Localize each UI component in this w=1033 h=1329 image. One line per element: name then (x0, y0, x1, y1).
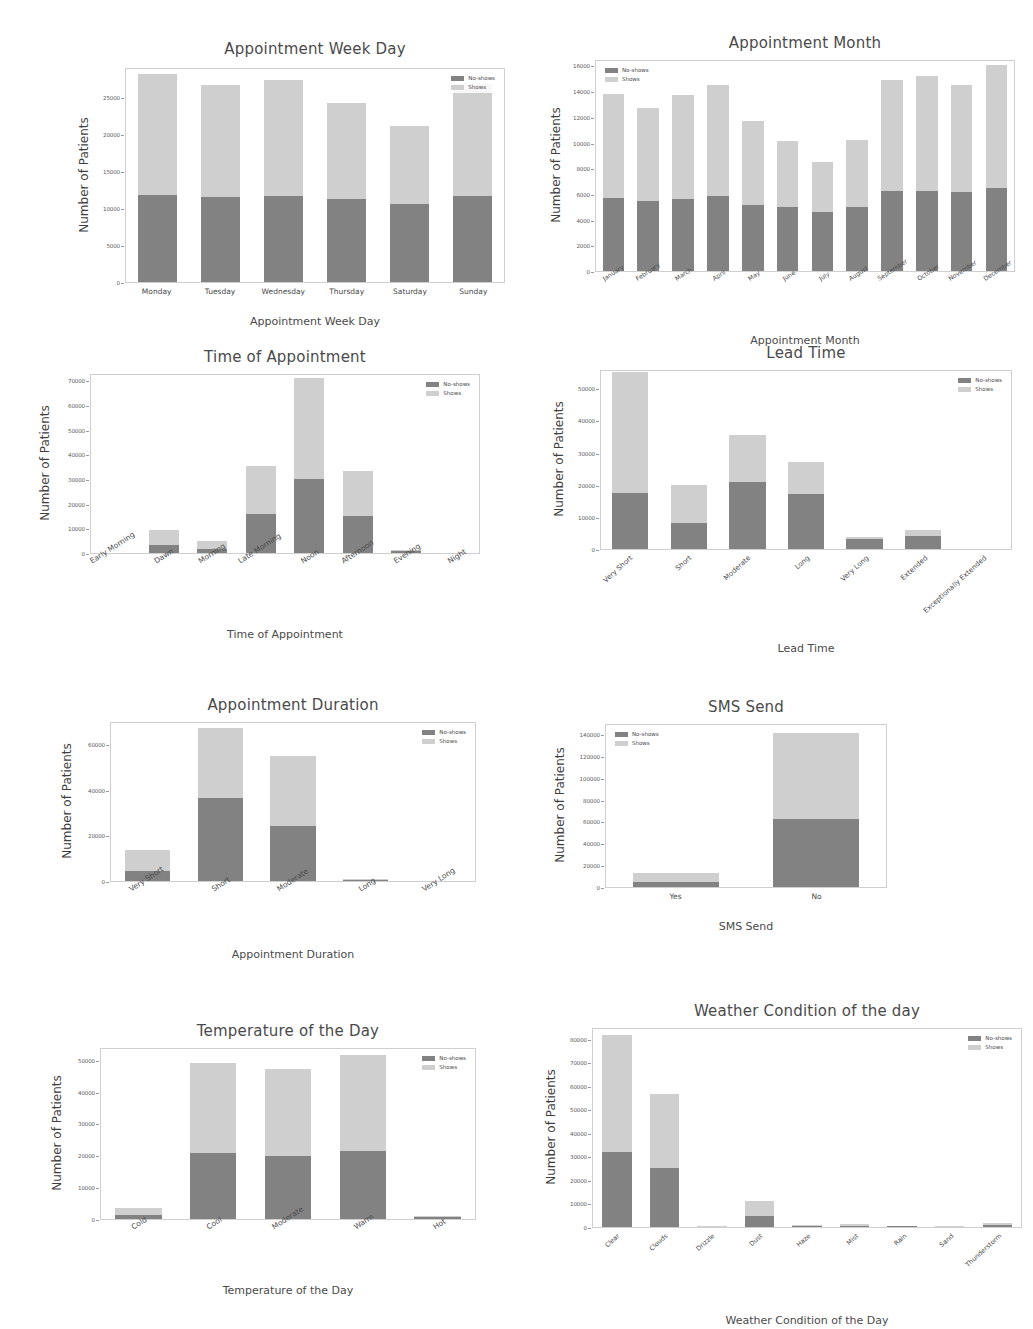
stacked-bar[interactable] (603, 94, 625, 271)
stacked-bar[interactable] (935, 1226, 964, 1227)
bar-slot (746, 725, 886, 887)
bar-segment-shows (951, 85, 973, 192)
legend-label-shows: Shows (975, 386, 993, 392)
stacked-bar[interactable] (745, 1201, 774, 1227)
bar-segment-noshows (986, 188, 1008, 272)
stacked-bar[interactable] (327, 103, 366, 282)
stacked-bar[interactable] (201, 85, 240, 282)
y-tick-label: 25000 (103, 95, 120, 101)
y-tick-label: 0 (117, 280, 120, 286)
stacked-bar[interactable] (792, 1225, 821, 1227)
stacked-bar[interactable] (390, 126, 429, 282)
stacked-bar[interactable] (707, 85, 729, 271)
bar-segment-shows (265, 1069, 311, 1156)
stacked-bar[interactable] (905, 530, 941, 549)
bar-segment-noshows (812, 212, 834, 271)
stacked-bar[interactable] (840, 1224, 869, 1227)
stacked-bar[interactable] (729, 435, 765, 549)
stacked-bar[interactable] (777, 141, 799, 271)
plot-area-sms: No-showsShows020000400006000080000100000… (605, 724, 887, 888)
stacked-bar[interactable] (773, 733, 860, 887)
stacked-bar[interactable] (887, 1226, 916, 1227)
bar-segment-shows (707, 85, 729, 195)
legend-swatch-noshows (605, 68, 618, 73)
x-tick-label: Short (674, 554, 693, 573)
stacked-bar[interactable] (671, 485, 707, 549)
bar-slot (926, 1029, 974, 1227)
bar-slot (770, 61, 805, 271)
chart-title-weekday: Appointment Week Day (125, 40, 505, 58)
bar-group-month (596, 61, 1014, 271)
bar-slot (140, 375, 189, 553)
legend-item-noshows: No-shows (451, 75, 495, 81)
chart-title-temperature: Temperature of the Day (100, 1022, 476, 1040)
stacked-bar[interactable] (788, 462, 824, 549)
x-tick-label: Saturday (393, 287, 427, 296)
bar-segment-noshows (340, 1151, 386, 1219)
stacked-bar[interactable] (264, 80, 303, 282)
stacked-bar[interactable] (340, 1055, 386, 1219)
stacked-bar[interactable] (612, 372, 648, 549)
stacked-bar[interactable] (637, 108, 659, 271)
bar-segment-shows (390, 126, 429, 205)
bar-slot (378, 69, 441, 282)
bar-slot (875, 61, 910, 271)
stacked-bar[interactable] (270, 756, 315, 881)
stacked-bar[interactable] (812, 162, 834, 271)
stacked-bar[interactable] (190, 1063, 236, 1219)
bar-slot (601, 371, 660, 549)
stacked-bar[interactable] (916, 76, 938, 271)
bar-segment-shows (916, 76, 938, 192)
stacked-bar[interactable] (846, 140, 868, 271)
stacked-bar[interactable] (453, 84, 492, 282)
stacked-bar[interactable] (742, 121, 764, 271)
y-tick-label: 20000 (570, 1178, 587, 1184)
x-tick-label: Clouds (647, 1232, 669, 1253)
stacked-bar[interactable] (986, 65, 1008, 271)
bar-segment-shows (138, 74, 177, 195)
y-axis-weather: 0100002000030000400005000060000700008000… (532, 1028, 592, 1228)
x-axis-month: JanuaryFebruaryMarchAprilMayJuneJulyAugu… (595, 272, 1015, 332)
legend-label-shows: Shows (439, 738, 457, 744)
plot-area-temperature: No-showsShows01000020000300004000050000C… (100, 1048, 476, 1220)
legend-item-noshows: No-shows (958, 377, 1002, 383)
y-axis-duration: 0200004000060000 (50, 722, 110, 882)
stacked-bar[interactable] (983, 1223, 1012, 1227)
x-axis-time: Early MorningDawnMorningLate MorningNoon… (90, 554, 480, 614)
stacked-bar[interactable] (633, 873, 720, 887)
plot-frame-lead: No-showsShows (600, 370, 1012, 550)
x-tick-label: Very Long (839, 554, 870, 583)
y-tick-label: 70000 (570, 1060, 587, 1066)
legend-swatch-noshows (451, 76, 464, 81)
bar-segment-noshows (390, 204, 429, 282)
stacked-bar[interactable] (881, 80, 903, 271)
bar-slot (593, 1029, 641, 1227)
stacked-bar[interactable] (846, 537, 882, 549)
legend-lead: No-showsShows (953, 374, 1007, 395)
stacked-bar[interactable] (265, 1069, 311, 1219)
stacked-bar[interactable] (951, 85, 973, 271)
stacked-bar[interactable] (650, 1094, 679, 1227)
x-tick-label: Very Short (602, 554, 635, 584)
bar-slot (944, 61, 979, 271)
legend-item-shows: Shows (958, 386, 1002, 392)
y-tick-label: 16000 (573, 63, 590, 69)
bar-slot (878, 1029, 926, 1227)
x-tick-label: Dust (748, 1232, 765, 1248)
legend-swatch-noshows (615, 732, 628, 737)
stacked-bar[interactable] (672, 95, 694, 271)
stacked-bar[interactable] (602, 1035, 631, 1227)
stacked-bar[interactable] (138, 74, 177, 282)
y-tick-label: 10000 (68, 526, 85, 532)
legend-item-shows: Shows (422, 738, 466, 744)
x-axis-label-duration: Appointment Duration (110, 948, 476, 961)
chart-sms: SMS SendNo-showsShows0200004000060000800… (605, 698, 895, 948)
stacked-bar[interactable] (198, 728, 243, 881)
y-axis-label-duration: Number of Patients (60, 721, 74, 881)
x-axis-weather: ClearCloudsDrizzleDustHazeMistRainSandTh… (592, 1228, 1022, 1288)
stacked-bar[interactable] (697, 1226, 726, 1227)
stacked-bar[interactable] (294, 378, 324, 553)
y-tick-label: 140000 (580, 732, 600, 738)
y-tick-label: 0 (82, 551, 85, 557)
x-tick-label: Yes (669, 892, 681, 901)
